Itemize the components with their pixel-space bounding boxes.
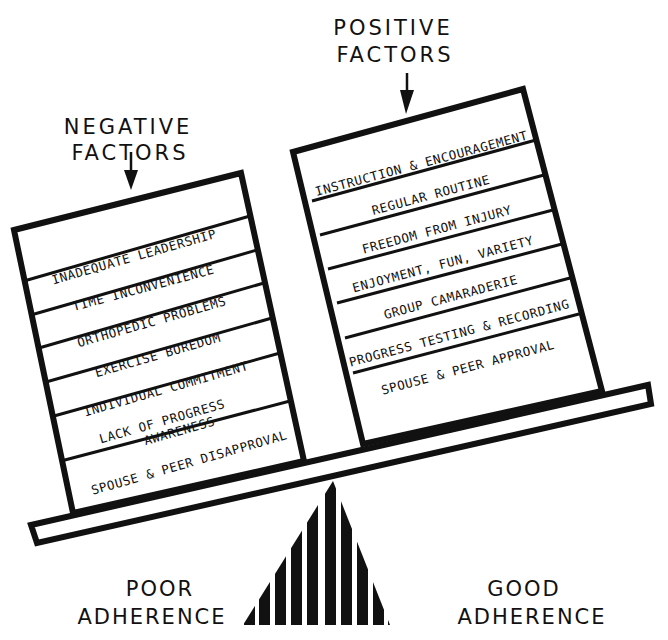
negative-title-line1: NEGATIVE (64, 115, 193, 139)
adherence-balance-diagram: NEGATIVE FACTORS POSITIVE FACTORS INADEQ… (0, 0, 668, 640)
poor-adherence-label: POOR ADHERENCE (77, 577, 226, 629)
positive-title-line1: POSITIVE (333, 16, 452, 40)
positive-factors-header: POSITIVE FACTORS (333, 16, 453, 67)
positive-arrow-icon (400, 73, 414, 114)
negative-factors-header: NEGATIVE FACTORS (64, 115, 193, 165)
good-label-line2: ADHERENCE (457, 605, 606, 629)
positive-factors-box: INSTRUCTION & ENCOURAGEMENT REGULAR ROUT… (293, 89, 602, 444)
poor-label-line2: ADHERENCE (77, 605, 226, 629)
poor-label-line1: POOR (126, 577, 194, 601)
positive-title-line2: FACTORS (336, 43, 453, 67)
good-label-line1: GOOD (487, 577, 561, 601)
negative-factors-box: INADEQUATE LEADERSHIP TIME INCONVENIENCE… (14, 173, 304, 513)
good-adherence-label: GOOD ADHERENCE (457, 577, 606, 629)
